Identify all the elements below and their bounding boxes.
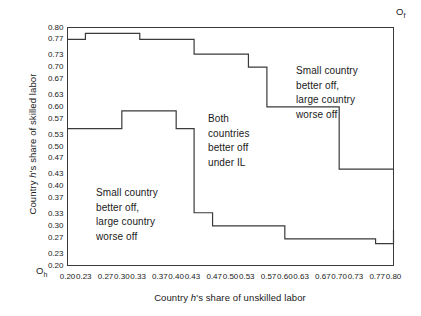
origin-marker-home-subscript: h xyxy=(43,271,47,278)
x-axis-title-post: 's share of unskilled labor xyxy=(196,292,306,303)
annotation-small-country-lower: Small country better off, large country … xyxy=(96,186,158,244)
x-axis-title-pre: Country xyxy=(154,292,191,303)
y-axis-title-pre: Country xyxy=(27,178,38,215)
origin-marker-foreign-subscript: f xyxy=(403,12,405,19)
annotation-both-countries: Both countries better off under IL xyxy=(208,112,249,170)
y-axis-title-variable: h xyxy=(27,172,38,177)
x-axis-title: Country h's share of unskilled labor xyxy=(67,292,393,303)
annotation-small-country-upper: Small country better off, large country … xyxy=(296,64,358,122)
origin-marker-foreign: Of xyxy=(396,6,405,19)
y-axis-title: Country h's share of skilled labor xyxy=(23,24,43,264)
origin-marker-home: Oh xyxy=(36,265,47,278)
figure-container: Country h's share of skilled labor Count… xyxy=(0,0,421,316)
y-axis-title-post: 's share of skilled labor xyxy=(27,74,38,173)
